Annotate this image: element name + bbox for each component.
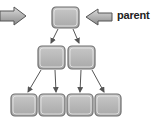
tree-node-level1: [68, 46, 95, 69]
tree-node-level1: [38, 46, 65, 69]
pointer-arrow-left-icon: [0, 7, 26, 25]
pointer-arrow-parent-icon: [86, 9, 112, 25]
parent-label: parent: [117, 9, 149, 21]
tree-node-leaf: [39, 94, 65, 116]
tree-node-leaf: [67, 94, 93, 116]
tree-node-leaf: [95, 94, 121, 116]
tree-node-root: [52, 7, 79, 28]
tree-node-leaf: [11, 94, 37, 116]
